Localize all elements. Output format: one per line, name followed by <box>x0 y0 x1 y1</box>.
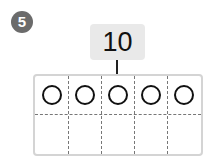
ten-frame-empty-cell[interactable] <box>101 115 134 153</box>
circle-counter-icon <box>75 85 95 105</box>
connector-line <box>116 60 118 74</box>
ten-frame-cell[interactable] <box>134 76 167 114</box>
problem-number-badge: 5 <box>11 11 33 33</box>
ten-frame-cell[interactable] <box>167 76 200 114</box>
circle-counter-icon <box>141 85 161 105</box>
circle-counter-icon <box>174 85 194 105</box>
ten-frame-empty-cell[interactable] <box>134 115 167 153</box>
target-value-tag: 10 <box>90 24 145 60</box>
ten-frame-empty-cell[interactable] <box>167 115 200 153</box>
circle-counter-icon <box>42 85 62 105</box>
circle-counter-icon <box>108 85 128 105</box>
ten-frame <box>33 74 203 156</box>
ten-frame-cell[interactable] <box>35 76 68 114</box>
ten-frame-cell[interactable] <box>68 76 101 114</box>
ten-frame-empty-cell[interactable] <box>35 115 68 153</box>
ten-frame-cell[interactable] <box>101 76 134 114</box>
ten-frame-empty-cell[interactable] <box>68 115 101 153</box>
